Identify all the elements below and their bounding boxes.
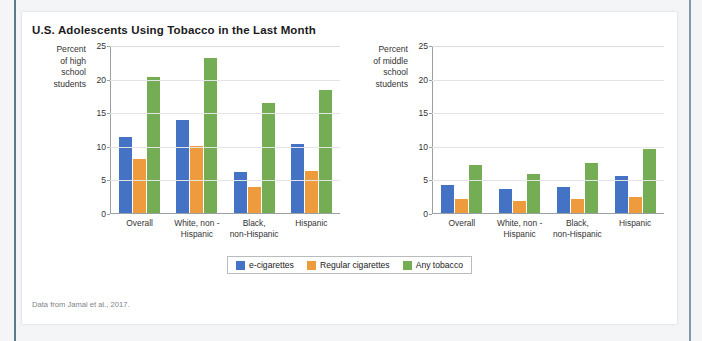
x-axis-category-label-line: non-Hispanic	[226, 229, 283, 240]
legend-item[interactable]: Any tobacco	[403, 260, 463, 270]
x-axis-category-label: Overall	[433, 218, 491, 239]
bar[interactable]	[441, 185, 454, 213]
x-axis-category-label-line: White, non -	[491, 218, 549, 229]
bar-group	[491, 46, 549, 213]
y-axis-label-line: students	[28, 79, 86, 91]
x-axis-category-label-line: Hispanic	[168, 229, 225, 240]
bar[interactable]	[147, 77, 160, 213]
legend-item[interactable]: Regular cigarettes	[307, 260, 390, 270]
bar-group	[433, 46, 491, 213]
y-axis-tick-label: 5	[101, 175, 106, 185]
bar-group	[168, 46, 225, 213]
y-axis-tick-label: 0	[423, 209, 428, 219]
x-axis-category-label-line: Overall	[111, 218, 168, 229]
bar[interactable]	[119, 137, 132, 213]
legend-swatch-icon	[403, 261, 412, 270]
bar[interactable]	[571, 199, 584, 213]
legend-label: e-cigarettes	[249, 260, 294, 270]
x-axis-category-label-line: Hispanic	[491, 229, 549, 240]
chart-middle-school: Percentof middleschoolstudents 252015105…	[350, 42, 672, 247]
bar[interactable]	[469, 165, 482, 213]
x-axis-category-label: Hispanic	[283, 218, 340, 239]
bar[interactable]	[455, 199, 468, 213]
y-axis-tick-mark	[107, 113, 110, 114]
y-axis-tick-mark	[107, 80, 110, 81]
y-axis-label-middle-school: Percentof middleschoolstudents	[350, 44, 408, 90]
x-axis-labels-middle-school: OverallWhite, non -HispanicBlack,non-His…	[433, 218, 664, 239]
y-axis-tick-label: 25	[418, 41, 428, 51]
x-axis-category-label-line: Overall	[433, 218, 491, 229]
bar-group	[226, 46, 283, 213]
bar[interactable]	[262, 103, 275, 213]
gridline	[432, 80, 664, 81]
bar[interactable]	[248, 187, 261, 213]
y-axis-tick-mark	[429, 214, 432, 215]
legend: e-cigarettesRegular cigarettesAny tobacc…	[22, 256, 677, 274]
x-axis-category-label-line: non-Hispanic	[549, 229, 607, 240]
bar[interactable]	[176, 120, 189, 213]
y-axis-label-high-school: Percentof highschoolstudents	[28, 44, 86, 90]
charts-container: Percentof highschoolstudents 2520151050 …	[22, 42, 677, 247]
bar[interactable]	[234, 172, 247, 213]
y-axis-tick-mark	[429, 113, 432, 114]
figure-card: U.S. Adolescents Using Tobacco in the La…	[22, 12, 677, 324]
x-axis-category-label-line: Hispanic	[283, 218, 340, 229]
x-axis-category-label: White, non -Hispanic	[491, 218, 549, 239]
bar[interactable]	[615, 176, 628, 213]
x-axis-category-label-line: Black,	[549, 218, 607, 229]
bar-group	[283, 46, 340, 213]
bar[interactable]	[291, 144, 304, 213]
bar[interactable]	[499, 189, 512, 213]
y-axis-label-line: Percent	[28, 44, 86, 56]
y-axis-tick-mark	[107, 214, 110, 215]
chart-high-school: Percentof highschoolstudents 2520151050 …	[28, 42, 348, 247]
y-axis-label-line: of middle	[350, 56, 408, 68]
bar[interactable]	[629, 197, 642, 213]
legend-label: Regular cigarettes	[320, 260, 390, 270]
y-axis-label-line: of high	[28, 56, 86, 68]
y-axis-tick-label: 25	[96, 41, 106, 51]
y-axis-tick-label: 10	[96, 142, 106, 152]
bar[interactable]	[557, 187, 570, 213]
gridline	[432, 180, 664, 181]
bar[interactable]	[585, 163, 598, 213]
y-axis-tick-mark	[429, 147, 432, 148]
page-rule-left	[14, 0, 16, 341]
bar-group	[549, 46, 607, 213]
source-note: Data from Jamal et al., 2017.	[32, 300, 130, 309]
y-axis-tick-label: 0	[101, 209, 106, 219]
x-axis-category-label-line: Hispanic	[606, 218, 664, 229]
figure-title: U.S. Adolescents Using Tobacco in the La…	[32, 24, 316, 36]
legend-label: Any tobacco	[416, 260, 463, 270]
plot-area-middle-school: 2520151050	[432, 46, 664, 214]
gridline	[110, 113, 340, 114]
legend-swatch-icon	[236, 261, 245, 270]
y-axis-tick-label: 20	[418, 75, 428, 85]
bar[interactable]	[133, 159, 146, 213]
y-axis-label-line: school	[28, 67, 86, 79]
y-axis-label-line: students	[350, 79, 408, 91]
y-axis-label-line: Percent	[350, 44, 408, 56]
bar[interactable]	[319, 90, 332, 213]
legend-item[interactable]: e-cigarettes	[236, 260, 294, 270]
y-axis-tick-label: 20	[96, 75, 106, 85]
bar[interactable]	[204, 58, 217, 213]
x-axis-category-label: Black,non-Hispanic	[226, 218, 283, 239]
x-axis-line	[432, 213, 664, 214]
x-axis-category-label-line: White, non -	[168, 218, 225, 229]
bar-groups-middle-school	[433, 46, 664, 213]
gridline	[110, 46, 340, 47]
y-axis-tick-mark	[107, 46, 110, 47]
bar[interactable]	[305, 171, 318, 213]
y-axis-tick-label: 10	[418, 142, 428, 152]
bar-groups-high-school	[111, 46, 340, 213]
y-axis-tick-mark	[429, 46, 432, 47]
gridline	[432, 113, 664, 114]
x-axis-category-label-line: Black,	[226, 218, 283, 229]
plot-area-high-school: 2520151050	[110, 46, 340, 214]
x-axis-category-label: Hispanic	[606, 218, 664, 239]
y-axis-tick-label: 15	[418, 108, 428, 118]
bar[interactable]	[513, 201, 526, 213]
gridline	[432, 46, 664, 47]
y-axis-tick-label: 15	[96, 108, 106, 118]
